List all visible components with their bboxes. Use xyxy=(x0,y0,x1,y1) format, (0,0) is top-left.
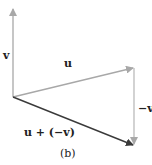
label-u-plus-neg-v: u + (−v) xyxy=(24,127,75,138)
figure-caption: (b) xyxy=(60,148,76,159)
label-neg-v: −v xyxy=(138,103,152,114)
vector-diagram xyxy=(0,0,152,165)
vector-u-arrow xyxy=(13,68,133,97)
label-v: v xyxy=(3,50,9,61)
label-u: u xyxy=(64,58,72,69)
